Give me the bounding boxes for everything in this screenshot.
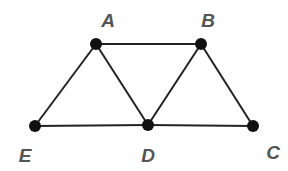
edge-AD	[96, 44, 148, 125]
edge-BC	[201, 44, 253, 126]
node-label-D: D	[141, 145, 155, 166]
node-B	[195, 38, 207, 50]
node-label-A: A	[100, 10, 115, 31]
labels: ABEDC	[19, 10, 280, 166]
edge-ED	[35, 125, 148, 126]
node-D	[142, 119, 154, 131]
graph-diagram: ABEDC	[0, 0, 288, 171]
node-E	[29, 120, 41, 132]
node-label-E: E	[19, 145, 33, 166]
edge-BD	[148, 44, 201, 125]
edge-AE	[35, 44, 96, 126]
node-label-B: B	[201, 10, 215, 31]
edge-DC	[148, 125, 253, 126]
node-label-C: C	[266, 142, 280, 163]
edges	[35, 44, 253, 126]
node-C	[247, 120, 259, 132]
node-A	[90, 38, 102, 50]
